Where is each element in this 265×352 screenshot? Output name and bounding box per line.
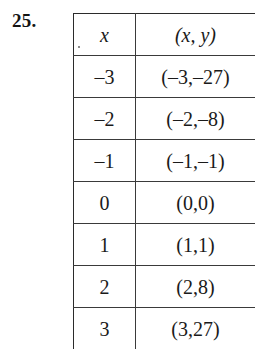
cell-pair: (–3,–27) — [136, 56, 256, 98]
cell-pair: (3,27) — [136, 308, 256, 350]
cell-x: 0 — [74, 182, 136, 224]
table-row: 0 (0,0) — [74, 182, 256, 224]
value-table: x (x, y) –3 (–3,–27) –2 (–2,–8) –1 (–1,–… — [73, 13, 255, 349]
table-row: 2 (2,8) — [74, 266, 256, 308]
cell-pair: (–2,–8) — [136, 98, 256, 140]
table-row: –1 (–1,–1) — [74, 140, 256, 182]
value-table-container: x (x, y) –3 (–3,–27) –2 (–2,–8) –1 (–1,–… — [73, 13, 255, 352]
cell-x: –2 — [74, 98, 136, 140]
table-row: 3 (3,27) — [74, 308, 256, 350]
cell-x: 3 — [74, 308, 136, 350]
cell-x: 1 — [74, 224, 136, 266]
cell-pair: (1,1) — [136, 224, 256, 266]
table-row: 1 (1,1) — [74, 224, 256, 266]
scan-artifact-dot — [78, 46, 80, 48]
cell-pair: (–1,–1) — [136, 140, 256, 182]
cell-x: 2 — [74, 266, 136, 308]
table-header-row: x (x, y) — [74, 14, 256, 56]
problem-number: 25. — [12, 10, 36, 32]
column-header-pair: (x, y) — [136, 14, 256, 56]
table-row: –2 (–2,–8) — [74, 98, 256, 140]
exercise-item: 25. x (x, y) –3 (–3,–27) –2 (–2,–8) — [0, 0, 265, 352]
cell-pair: (2,8) — [136, 266, 256, 308]
table-row: –3 (–3,–27) — [74, 56, 256, 98]
cell-pair: (0,0) — [136, 182, 256, 224]
cell-x: –3 — [74, 56, 136, 98]
column-header-x: x — [74, 14, 136, 56]
cell-x: –1 — [74, 140, 136, 182]
